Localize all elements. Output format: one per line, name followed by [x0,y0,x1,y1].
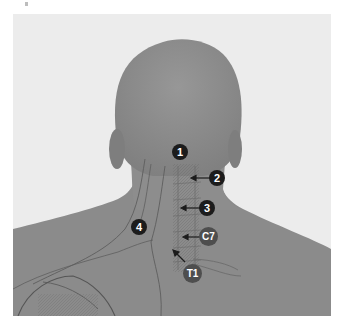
right-ear [228,130,242,168]
left-ear [109,129,125,169]
marker-4: 4 [131,219,147,235]
marker-2: 2 [209,170,225,186]
marker-c7: C7 [199,227,218,246]
marker-3: 3 [199,200,215,216]
marker-t1: T1 [183,264,202,283]
marker-1: 1 [172,144,188,160]
scan-artifact [25,2,28,6]
anatomy-illustration [13,14,331,316]
anatomy-figure: 1 2 3 4 C7 T1 [13,14,331,316]
